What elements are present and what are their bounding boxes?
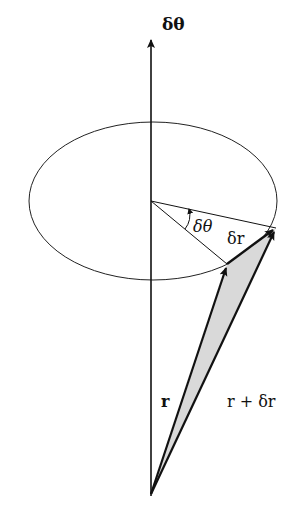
rotation-diagram: δθ δθ δr r r + δr <box>0 0 304 526</box>
vector-r <box>151 268 226 494</box>
vector-r-plus-dr <box>151 232 274 494</box>
r-label: r <box>161 392 170 411</box>
angle-label: δθ <box>193 217 213 236</box>
axis-label: δθ <box>162 14 185 34</box>
angle-arc-icon <box>185 209 190 229</box>
r-plus-dr-label: r + δr <box>227 392 276 411</box>
delta-r-label: δr <box>227 229 245 248</box>
radius-line-1 <box>151 201 276 228</box>
